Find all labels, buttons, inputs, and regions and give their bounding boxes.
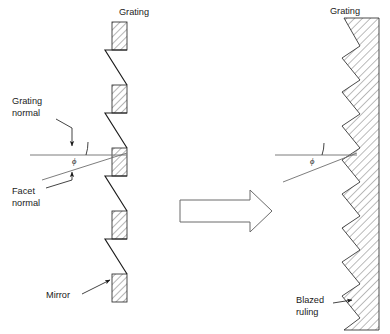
mirror-segment [112,274,127,302]
facet-step-line [105,50,127,85]
mirror-segment [112,85,127,113]
mirror-segment [112,148,127,176]
facet-step-line [105,239,127,274]
figure-root: Grating ϕ [0,0,390,334]
blazed-ruling-label-line2: ruling [296,307,318,317]
mirror-segment [112,211,127,239]
facet-normal-ray-right [283,153,357,182]
angle-symbol-right: ϕ [310,156,315,166]
grating-label-right: Grating [330,6,360,16]
facet-normal-label-line1: Facet [12,186,35,196]
mirror-leader [82,280,110,294]
angle-arc-left [86,142,88,155]
angle-symbol-left: ϕ [72,156,77,166]
diagram-canvas: Grating ϕ [0,0,390,334]
transform-arrow-group [180,190,272,232]
grating-normal-label-line1: Grating [12,96,42,106]
grating-normal-label-line2: normal [12,108,40,118]
mirror-label: Mirror [46,290,70,300]
right-panel-group: Grating ϕ Blazed ruling [275,6,379,330]
blazed-ruling-label-line1: Blazed [296,295,324,305]
grating-normal-leader [56,119,72,146]
rightward-block-arrow [180,190,272,232]
facet-step-line [105,113,127,148]
facet-normal-label-line2: normal [12,198,40,208]
grating-label-left: Grating [119,7,149,17]
angle-arc-right [322,143,324,155]
facet-step-line [105,176,127,211]
blazed-grating-block [342,18,379,330]
left-panel-group: Grating ϕ [12,7,149,302]
mirror-segment [112,22,127,50]
